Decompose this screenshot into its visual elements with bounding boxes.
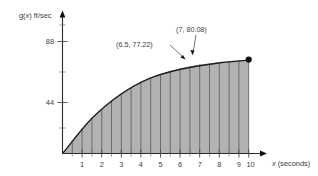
annotation-leader-left [170,45,184,58]
endpoint-marker-icon [246,57,252,63]
annotation-leader-right [193,35,196,53]
x-tick-label-5: 5 [158,160,162,169]
x-tick-label-6: 6 [178,160,182,169]
x-tick-label-1: 1 [80,160,84,169]
y-axis-label: g(x) ft/sec [19,11,52,20]
riemann-sum-area-chart: 88 44 1 2 3 4 5 6 7 8 9 10 g(x) ft/sec x… [0,0,318,176]
annotation-label-left: (6.5, 77.22) [116,40,153,49]
x-tick-label-2: 2 [100,160,104,169]
y-tick-label-44: 44 [46,98,54,107]
y-tick-label-88: 88 [46,37,54,46]
x-tick-label-4: 4 [139,160,143,169]
area-under-curve-region [63,60,249,153]
annotation-label-right: (7, 80.08) [176,25,207,34]
x-axis-label-suffix: (seconds) [276,159,311,168]
x-tick-label-10: 10 [246,160,254,169]
x-tick-label-8: 8 [217,160,221,169]
annotation-arrowhead-right [190,50,194,55]
y-axis [58,11,68,154]
y-axis-label-suffix: ) ft/sec [29,11,51,20]
x-tick-label-3: 3 [119,160,123,169]
x-tick-label-9: 9 [237,160,241,169]
x-axis-label: x (seconds) [271,159,310,168]
x-tick-label-7: 7 [198,160,202,169]
chart-figure: 88 44 1 2 3 4 5 6 7 8 9 10 g(x) ft/sec x… [0,0,318,176]
